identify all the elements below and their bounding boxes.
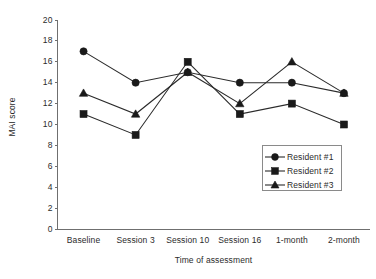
data-point-square [340,121,347,128]
y-tick-label: 8 [31,141,53,150]
series-line-2 [84,62,344,135]
data-point-circle [132,79,139,86]
y-tick-label: 12 [31,99,53,108]
line-chart: 02468101214161820 BaselineSession 3Sessi… [0,0,376,279]
y-tick-label: 6 [31,162,53,171]
series-line-1 [84,51,344,93]
legend-label: Resident #3 [287,180,333,190]
legend-item-2: Resident #2 [263,163,343,178]
y-tick-label: 16 [31,57,53,66]
legend-marker-circle [263,150,287,164]
data-point-square [184,58,191,65]
legend-marker-triangle [263,178,287,192]
data-point-circle [272,153,279,160]
axes [58,20,371,230]
data-point-square [132,131,139,138]
data-point-triangle [79,89,87,96]
legend-label: Resident #2 [287,166,333,176]
series-markers [79,48,348,139]
data-point-square [288,100,295,107]
x-axis-title: Time of assessment [57,255,370,265]
data-point-triangle [131,110,139,117]
legend-item-3: Resident #3 [263,177,343,192]
legend: Resident #1Resident #2Resident #3 [262,145,342,191]
y-tick-label: 20 [31,16,53,25]
data-point-square [80,111,87,118]
data-point-circle [80,48,87,55]
series-line-3 [84,62,344,114]
legend-label: Resident #1 [287,152,333,162]
y-tick-label: 0 [31,225,53,234]
y-tick-label: 2 [31,204,53,213]
y-tick-label: 10 [31,120,53,129]
x-tick-label: 2-month [304,236,376,245]
data-point-square [272,167,279,174]
legend-item-1: Resident #1 [263,149,343,164]
series-lines [84,51,344,135]
y-tick-label: 4 [31,183,53,192]
data-point-triangle [288,58,296,65]
y-tick-label: 18 [31,36,53,45]
data-point-circle [236,79,243,86]
data-point-circle [288,79,295,86]
y-tick-label: 14 [31,78,53,87]
legend-marker-square [263,164,287,178]
y-axis-title: MAI score [7,87,17,147]
data-point-square [236,111,243,118]
data-point-triangle [236,99,244,106]
